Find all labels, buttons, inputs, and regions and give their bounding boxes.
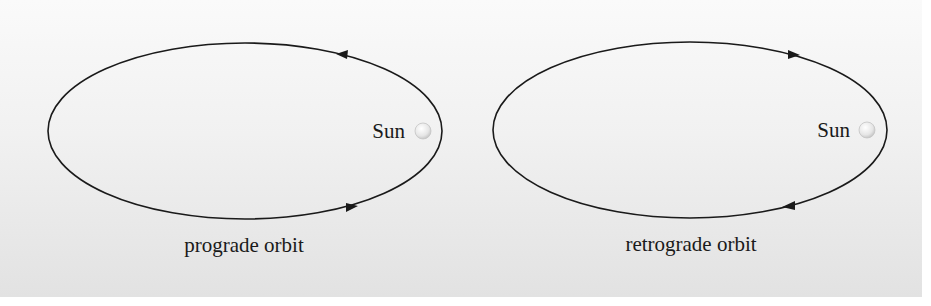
prograde-caption: prograde orbit bbox=[184, 233, 304, 257]
orbit-diagrams: Sun prograde orbit Sun retrograde orbit bbox=[0, 0, 931, 306]
retrograde-caption: retrograde orbit bbox=[625, 232, 756, 256]
orbit-diagram-canvas: Sun prograde orbit Sun retrograde orbit bbox=[0, 0, 931, 306]
arrow-left-icon bbox=[336, 50, 348, 59]
retrograde-orbit-diagram: Sun retrograde orbit bbox=[493, 42, 887, 256]
sun-label: Sun bbox=[372, 119, 405, 143]
sun-icon bbox=[859, 122, 875, 138]
sun-label: Sun bbox=[817, 118, 850, 142]
sun-icon bbox=[415, 123, 431, 139]
arrow-right-icon bbox=[788, 50, 800, 59]
prograde-orbit-diagram: Sun prograde orbit bbox=[48, 43, 442, 257]
arrow-left-icon bbox=[782, 201, 795, 210]
